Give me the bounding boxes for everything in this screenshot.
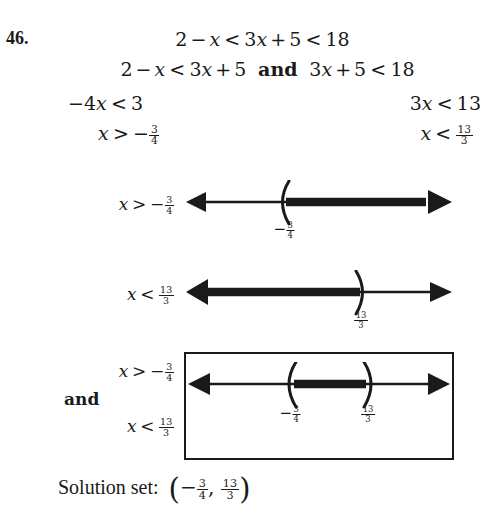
intersection-number-line-graphic: −34 133: [186, 362, 452, 448]
solution-set-interval: (−34, 133): [159, 475, 251, 499]
step2-left-expr: −4x<3: [68, 92, 143, 114]
intersection-number-line-svg: [186, 362, 452, 422]
number-line-2-graphic: 133: [184, 270, 456, 356]
number-line-1-label: x>−34: [34, 194, 174, 216]
step3-row: x>−34 x<133: [56, 122, 483, 147]
solution-set-label: Solution set:: [58, 476, 159, 498]
and-connector: and: [246, 58, 309, 80]
number-line-1-graphic: −34: [184, 180, 456, 266]
left-arrowhead: [188, 373, 210, 395]
number-line-1-svg: [184, 180, 456, 240]
split-inequalities-line: 2−x<3x+5and3x+5<18: [0, 58, 489, 80]
compound-inequality-expr: 2−x<3x+5<18: [175, 28, 349, 50]
intersection-left-tick-label: −34: [279, 404, 300, 423]
step2-right-expr: 3x<13: [410, 92, 481, 114]
intersection-and-connector: and: [34, 386, 174, 414]
right-arrowhead: [430, 282, 452, 302]
number-line-2-tick-label: 133: [354, 310, 368, 329]
solution-set-line: Solution set:(−34, 133): [58, 472, 251, 506]
left-arrowhead: [186, 279, 208, 305]
split-right-expr: 3x+5<18: [309, 58, 414, 80]
intersection-label-line-3: x<133: [34, 413, 174, 441]
split-left-expr: 2−x<3x+5: [120, 58, 246, 80]
compound-inequality-line: 2−x<3x+5<18: [0, 28, 497, 50]
intersection-label-stack: x>−34 and x<133: [34, 358, 174, 441]
number-line-2-svg: [184, 270, 456, 330]
worksheet-page: 46. 2−x<3x+5<18 2−x<3x+5and3x+5<18 −4x<3…: [0, 0, 497, 525]
step3-left-expr: x>−34: [98, 122, 160, 147]
left-arrowhead: [186, 192, 206, 212]
intersection-right-tick-label: 133: [361, 404, 375, 423]
step3-right-expr: x<133: [420, 122, 473, 147]
right-arrowhead: [428, 190, 452, 214]
intersection-label-line-1: x>−34: [34, 358, 174, 386]
intersection-result-box: −34 133: [184, 352, 454, 460]
number-line-2-label: x<133: [34, 284, 174, 306]
right-arrowhead: [428, 373, 450, 395]
step2-row: −4x<3 3x<13: [56, 92, 483, 114]
number-line-1-tick-label: −34: [273, 220, 294, 239]
